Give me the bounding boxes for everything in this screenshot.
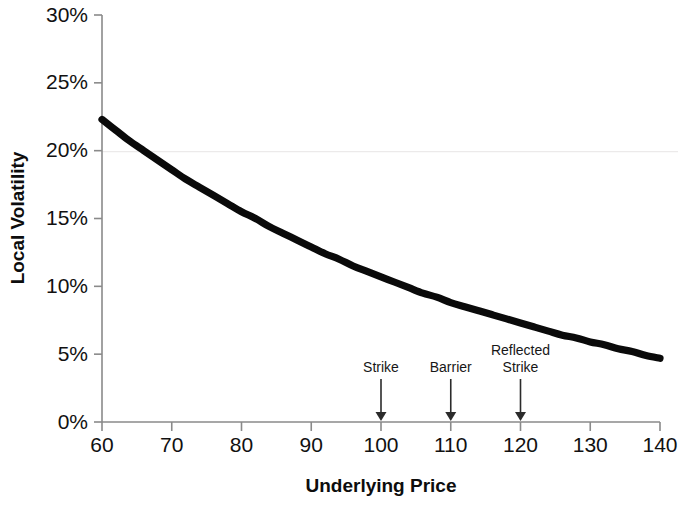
annotation-label-barrier: Barrier — [430, 359, 472, 375]
annotation-strike: Strike — [363, 359, 399, 421]
y-axis-title: Local Volatility — [7, 151, 28, 284]
annotation-arrow-head-reflected-strike — [515, 412, 526, 421]
x-tick-label-140: 140 — [642, 433, 677, 456]
y-tick-label-15%: 15% — [46, 206, 88, 229]
x-tick-label-60: 60 — [90, 433, 113, 456]
y-axis-ticks — [94, 15, 102, 422]
x-axis-title: Underlying Price — [306, 475, 457, 496]
x-axis-ticks — [102, 422, 660, 431]
x-tick-label-110: 110 — [434, 433, 467, 456]
chart-container: 0%5%10%15%20%25%30% 60708090100110120130… — [0, 0, 680, 505]
x-tick-label-100: 100 — [363, 433, 398, 456]
x-tick-label-80: 80 — [230, 433, 253, 456]
annotation-arrow-head-barrier — [445, 412, 456, 421]
annotation-group: StrikeBarrierReflectedStrike — [363, 342, 550, 421]
data-series-group — [102, 119, 660, 358]
y-tick-label-10%: 10% — [46, 274, 88, 297]
y-axis-tick-labels: 0%5%10%15%20%25%30% — [46, 3, 88, 433]
local-volatility-chart: 0%5%10%15%20%25%30% 60708090100110120130… — [0, 0, 680, 505]
y-tick-label-30%: 30% — [46, 3, 88, 26]
x-tick-label-90: 90 — [300, 433, 323, 456]
local-volatility-curve — [102, 119, 660, 358]
annotation-label-reflected-strike-line1: Reflected — [491, 342, 550, 358]
x-axis-tick-labels: 60708090100110120130140 — [90, 433, 677, 456]
annotation-label-reflected-strike-line2: Strike — [503, 359, 539, 375]
annotation-label-strike: Strike — [363, 359, 399, 375]
x-tick-label-130: 130 — [573, 433, 608, 456]
y-tick-label-25%: 25% — [46, 70, 88, 93]
annotation-reflected-strike: ReflectedStrike — [491, 342, 550, 421]
y-tick-label-0%: 0% — [58, 410, 88, 433]
annotation-arrow-head-strike — [376, 412, 387, 421]
y-tick-label-20%: 20% — [46, 138, 88, 161]
y-tick-label-5%: 5% — [58, 342, 88, 365]
x-tick-label-120: 120 — [503, 433, 538, 456]
x-tick-label-70: 70 — [160, 433, 183, 456]
annotation-barrier: Barrier — [430, 359, 472, 421]
